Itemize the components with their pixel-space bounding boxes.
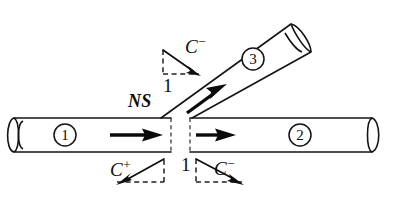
figure-canvas	[0, 0, 394, 199]
pipe-3-body	[161, 24, 311, 118]
upstream-c-plus-letter: C	[110, 159, 123, 180]
upstream-c-plus-sign: +	[123, 157, 130, 172]
branch-c-minus-sign: −	[198, 34, 205, 49]
flow-arrow-pipe-3	[187, 84, 227, 113]
pipe-3-upper-wall	[161, 24, 291, 118]
pipe-1-open-end-outer	[8, 118, 14, 152]
pipe-3-number-label: 3	[242, 48, 264, 70]
branch-slope-label: 1	[163, 76, 173, 95]
pipe-3-end-ellipse	[285, 33, 302, 52]
pipe-2-open-end-outer	[372, 118, 379, 152]
pipe-junction-figure: NS C− 1 1 C+ C− 1 2 3	[0, 0, 394, 199]
pipe-1-number-label: 1	[54, 124, 76, 146]
upstream-c-plus-label: C+	[110, 158, 131, 179]
downstream-c-minus-letter: C	[214, 158, 227, 179]
flow-arrow-pipe-2-head	[215, 129, 236, 142]
junction-slope-label: 1	[181, 155, 191, 174]
pipe-3-open-end-inner	[291, 24, 311, 52]
downstream-c-minus-label: C−	[214, 157, 235, 178]
branch-c-minus-letter: C	[185, 36, 198, 57]
branch-c-minus-label: C−	[185, 35, 206, 56]
ns-label: NS	[128, 92, 152, 110]
upstream-triangle-hypotenuse	[126, 159, 164, 180]
pipe-1-end-ellipse	[19, 121, 24, 149]
pipe-3-open-end-outer	[291, 24, 311, 52]
flow-arrow-pipe-2	[196, 129, 236, 142]
flow-arrow-pipe-1	[110, 129, 163, 142]
downstream-c-minus-sign: −	[227, 156, 234, 171]
flow-arrow-pipe-1-head	[142, 129, 163, 142]
junction-boundaries	[171, 118, 190, 152]
pipe-2-open-end-inner	[368, 118, 373, 152]
pipe-2-number-label: 2	[289, 124, 311, 146]
